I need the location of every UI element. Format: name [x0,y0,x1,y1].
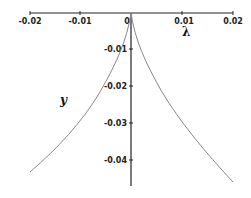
y-tick-label: -0.01 [104,45,127,54]
y-tick-label: -0.02 [104,82,127,91]
x-tick-label: -0.01 [68,17,91,26]
y-tick-label: -0.03 [104,119,127,128]
x-axis-label: λ [182,25,190,39]
x-tick-label: 0.02 [223,17,243,26]
plot: -0.02 -0.01 0 0.01 0.02 λ -0.01 -0.02 -0… [0,0,251,198]
y-ticks: -0.01 -0.02 -0.03 -0.04 [104,45,133,165]
x-tick-label: -0.02 [18,17,41,26]
y-tick-label: -0.04 [104,156,127,165]
curve-left [30,13,131,172]
y-axis-label: y [59,93,68,107]
